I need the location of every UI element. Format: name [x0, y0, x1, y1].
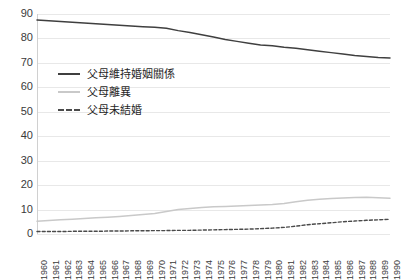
- x-tick-label: 1972: [181, 236, 190, 280]
- x-tick-label: 1967: [122, 236, 131, 280]
- x-tick-label: 1970: [158, 236, 167, 280]
- x-tick-label: 1981: [287, 236, 296, 280]
- x-tick-label: 1969: [146, 236, 155, 280]
- legend-line-icon-never-married: [58, 105, 80, 115]
- x-tick-label: 1964: [87, 236, 96, 280]
- x-tick-label: 1974: [205, 236, 214, 280]
- legend-item-married: 父母維持婚姻關係: [58, 66, 175, 82]
- legend-item-divorced: 父母離異: [58, 84, 175, 100]
- x-tick-label: 1968: [134, 236, 143, 280]
- legend-label-divorced: 父母離異: [87, 86, 131, 98]
- legend-label-never-married: 父母未結婚: [87, 104, 142, 116]
- x-tick-label: 1965: [99, 236, 108, 280]
- x-tick-label: 1961: [52, 236, 61, 280]
- x-tick-label: 1985: [334, 236, 343, 280]
- legend-item-never-married: 父母未結婚: [58, 102, 175, 118]
- x-tick-label: 1988: [369, 236, 378, 280]
- x-tick-label: 1984: [322, 236, 331, 280]
- series-line-2: [37, 219, 390, 231]
- x-tick-label: 1976: [228, 236, 237, 280]
- x-axis-labels: 1960196119621963196419651966196719681969…: [37, 236, 390, 280]
- x-tick-label: 1982: [299, 236, 308, 280]
- x-tick-label: 1979: [264, 236, 273, 280]
- chart-legend: 父母維持婚姻關係 父母離異 父母未結婚: [58, 66, 175, 120]
- x-tick-label: 1980: [275, 236, 284, 280]
- legend-line-icon-divorced: [58, 87, 80, 97]
- x-tick-label: 1989: [381, 236, 390, 280]
- x-tick-label: 1975: [217, 236, 226, 280]
- legend-label-married: 父母維持婚姻關係: [87, 68, 175, 80]
- x-tick-label: 1963: [75, 236, 84, 280]
- x-tick-label: 1971: [169, 236, 178, 280]
- legend-line-icon-married: [58, 69, 80, 79]
- x-tick-label: 1990: [393, 236, 402, 280]
- x-tick-label: 1960: [40, 236, 49, 280]
- series-line-0: [37, 20, 390, 58]
- x-tick-label: 1987: [358, 236, 367, 280]
- series-line-1: [37, 197, 390, 221]
- x-tick-label: 1978: [252, 236, 261, 280]
- x-tick-label: 1966: [111, 236, 120, 280]
- x-tick-label: 1986: [346, 236, 355, 280]
- x-tick-label: 1962: [64, 236, 73, 280]
- x-tick-label: 1983: [311, 236, 320, 280]
- x-tick-label: 1973: [193, 236, 202, 280]
- x-tick-label: 1977: [240, 236, 249, 280]
